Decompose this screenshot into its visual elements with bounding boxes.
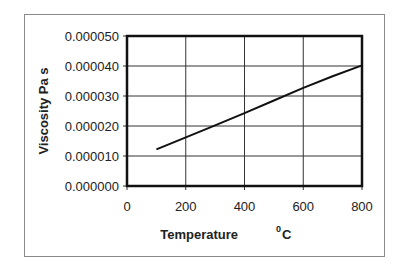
x-tick-label: 800 [351,199,373,214]
y-axis-label: Viscosity Pa s [36,67,51,154]
x-axis-ticks: 0200400600800 [123,199,372,214]
y-axis-ticks: 0.0000000.0000100.0000200.0000300.000040… [65,29,119,194]
y-tick-label: 0.000040 [65,59,119,74]
chart: 0.0000000.0000100.0000200.0000300.000040… [0,0,404,272]
x-axis-unit: C [282,227,292,242]
y-tick-label: 0.000030 [65,89,119,104]
viscosity-line [156,65,362,149]
x-tick-label: 0 [123,199,130,214]
x-axis-unit-sup: 0 [276,224,281,234]
y-tick-label: 0.000000 [65,179,119,194]
y-tick-label: 0.000050 [65,29,119,44]
y-tick-label: 0.000020 [65,119,119,134]
x-tick-label: 200 [175,199,197,214]
x-tick-label: 400 [234,199,256,214]
y-tick-label: 0.000010 [65,149,119,164]
x-tick-label: 600 [292,199,314,214]
x-axis-label: Temperature [160,227,238,242]
